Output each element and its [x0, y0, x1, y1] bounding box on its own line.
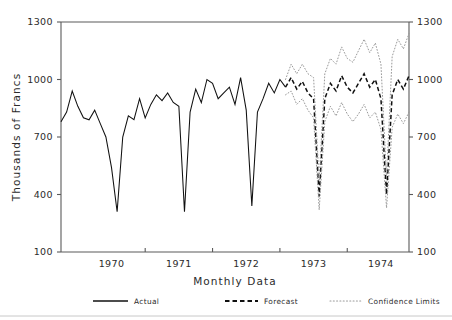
y-axis-tick-label-right: 1300	[417, 16, 443, 27]
y-axis-title: Thousands of Francs	[10, 73, 22, 202]
chart-container: 10040070010001300 10040070010001300 1970…	[0, 0, 452, 320]
y-axis-tick-label: 1300	[27, 16, 53, 27]
x-axis-ticks	[145, 248, 347, 252]
y-axis-tick-label: 1000	[27, 74, 53, 85]
y-axis-tick-label: 400	[34, 189, 53, 200]
y-axis-right-labels: 10040070010001300	[417, 16, 443, 257]
y-axis-tick-label-right: 400	[417, 189, 436, 200]
y-axis-right-ticks	[409, 22, 413, 252]
x-axis-tick-label: 1970	[99, 258, 125, 269]
plot-frame	[61, 22, 409, 252]
legend: Actual Forecast Confidence Limits	[93, 297, 440, 306]
y-axis-tick-label-right: 100	[417, 246, 436, 257]
legend-label-forecast: Forecast	[264, 297, 298, 306]
legend-label-actual: Actual	[134, 297, 159, 306]
x-axis-tick-label: 1973	[301, 258, 327, 269]
x-axis-tick-label: 1974	[368, 258, 394, 269]
y-axis-tick-label-right: 1000	[417, 74, 443, 85]
y-axis-tick-label-right: 700	[417, 131, 436, 142]
x-axis-tick-label: 1971	[166, 258, 192, 269]
y-axis-left-ticks	[57, 22, 61, 252]
y-axis-left-labels: 10040070010001300	[27, 16, 53, 257]
data-series-group	[61, 34, 409, 212]
x-axis-labels: 19701971197219731974	[99, 258, 394, 269]
y-axis-tick-label: 700	[34, 131, 53, 142]
x-axis-title: Monthly Data	[193, 275, 277, 287]
time-series-chart: 10040070010001300 10040070010001300 1970…	[0, 0, 452, 320]
series-line-confidence-limits-upper	[286, 34, 409, 182]
series-line-confidence-limits-lower	[286, 91, 409, 210]
legend-label-confidence-limits: Confidence Limits	[368, 297, 440, 306]
x-axis-tick-label: 1972	[233, 258, 259, 269]
y-axis-tick-label: 100	[34, 246, 53, 257]
series-line-actual	[61, 78, 286, 212]
